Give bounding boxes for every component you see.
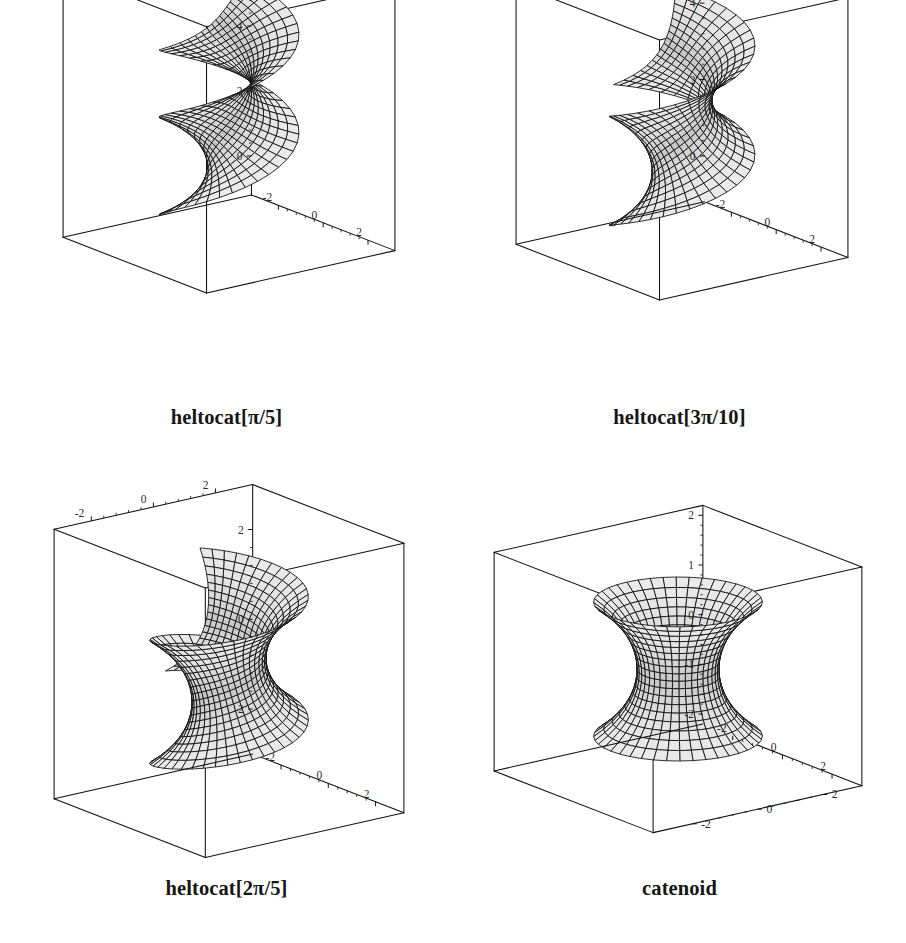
surface-patch: [202, 557, 213, 567]
surface-patch: [666, 681, 672, 689]
surface-patch: [659, 666, 666, 674]
surface-patch: [679, 641, 688, 647]
surface-patch: [676, 587, 688, 597]
surface-plot-1: -2026420-202: [17, 0, 437, 400]
surface-mesh: [593, 577, 762, 761]
box-edge-bottom-front: [494, 771, 653, 833]
y-axis-bottom-label: -2: [262, 191, 272, 203]
surface-patch: [666, 750, 679, 761]
surface-patch: [666, 597, 676, 607]
x-axis-right-label: -2: [701, 818, 711, 830]
surface-patch: [669, 636, 679, 642]
surface-patch: [653, 750, 667, 761]
box-edge-bottom-back: [206, 251, 394, 293]
surface-patch: [676, 616, 684, 625]
surface-patch: [654, 679, 660, 688]
surface-patch: [686, 647, 695, 654]
y-axis-bottom-label: 0: [316, 769, 322, 781]
surface-patch: [664, 587, 676, 597]
plot-area-4: 210-1-2-202-202: [470, 471, 890, 871]
surface-patch: [691, 672, 697, 680]
z-axis-left-label: 2: [236, 85, 242, 97]
box-edge-top-front: [516, 0, 659, 40]
box-edge-top-front: [54, 529, 205, 588]
surface-patch: [671, 705, 679, 714]
z-axis-left-label: 4: [236, 20, 242, 32]
plot-caption-2: heltocat[3π/10]: [613, 406, 745, 429]
surface-patch: [665, 666, 672, 673]
box-edge-bottom-front: [63, 195, 251, 237]
surface-patch: [664, 704, 672, 713]
y-axis-bottom-label: 2: [820, 760, 826, 772]
plot-area-2: -202420-202: [470, 0, 890, 400]
surface-plot-4: 210-1-2-202-202: [470, 471, 890, 871]
box-edge-bottom-front: [516, 244, 659, 300]
box-edge-bottom-front: [63, 237, 206, 293]
z-axis-left-label: -2: [684, 708, 694, 720]
x-axis-top-label: 2: [202, 479, 208, 491]
panel-catenoid: 210-1-2-202-202 catenoid: [453, 471, 906, 942]
surface-patch: [676, 577, 689, 588]
surface-patch: [678, 681, 684, 689]
x-axis-right-label: 2: [831, 788, 837, 800]
surface-patch: [691, 687, 698, 696]
surface-patch: [671, 660, 678, 667]
surface-patch: [679, 626, 692, 631]
surface-patch: [662, 713, 671, 722]
z-axis-left-label: 0: [236, 150, 242, 162]
surface-patch: [665, 688, 672, 696]
z-axis-left-label: -1: [684, 658, 694, 670]
surface-patch: [196, 706, 200, 714]
surface-patch: [679, 740, 691, 750]
surface-mesh: [149, 548, 308, 769]
surface-patch: [688, 730, 699, 740]
surface-patch: [679, 647, 687, 653]
surface-patch: [679, 636, 689, 642]
surface-plot-2: -202420-202: [470, 0, 890, 400]
surface-patch: [668, 740, 680, 750]
surface-patch: [672, 681, 678, 689]
box-edge-bottom-front: [54, 799, 205, 858]
surface-patch: [668, 631, 680, 636]
surface-patch: [653, 687, 659, 696]
surface-patch: [664, 653, 672, 660]
surface-patch: [679, 722, 688, 731]
z-axis-left-label: 2: [689, 74, 695, 86]
box-edge-top-front: [63, 0, 206, 27]
surface-patch: [685, 696, 692, 705]
surface-patch: [671, 653, 679, 660]
y-axis-bottom-label: -2: [715, 198, 725, 210]
surface-patch: [667, 607, 676, 616]
surface-patch: [672, 674, 678, 681]
y-axis-bottom-label: -2: [265, 751, 275, 763]
plot-caption-3: heltocat[2π/5]: [166, 877, 288, 900]
surface-patch: [665, 696, 672, 705]
z-axis-left-label: 2: [688, 509, 694, 521]
surface-patch: [662, 647, 671, 654]
z-axis-left-label: 0: [688, 609, 694, 621]
surface-patch: [658, 659, 665, 667]
surface-patch: [692, 695, 699, 704]
surface-patch: [670, 642, 679, 648]
plot-caption-4: catenoid: [642, 877, 717, 900]
z-axis-left-label: 4: [689, 0, 695, 9]
y-axis-bottom-label: -2: [717, 722, 727, 734]
surface-patch: [207, 605, 213, 613]
x-axis-top-label: 0: [140, 493, 146, 505]
box-edge-bottom-back: [205, 813, 404, 858]
surface-patch: [668, 616, 676, 625]
z-axis-left-label: -2: [234, 703, 244, 715]
surface-patch: [679, 731, 689, 741]
surface-patch: [676, 597, 686, 607]
panel-heltocat-pi-5: -2026420-202 heltocat[π/5]: [0, 0, 453, 471]
plot-area-3: -20220-2-202: [17, 471, 437, 871]
surface-patch: [685, 680, 691, 688]
surface-patch: [691, 680, 697, 688]
box-edge-bottom-front: [516, 202, 704, 244]
surface-mesh: [159, 0, 299, 215]
surface-patch: [679, 750, 692, 761]
panel-heltocat-2pi-5: -20220-2-202 heltocat[2π/5]: [0, 471, 453, 942]
box-edge-top-front: [494, 505, 703, 552]
z-axis-left-label: 2: [237, 524, 243, 536]
y-axis-bottom-label: 0: [770, 741, 776, 753]
